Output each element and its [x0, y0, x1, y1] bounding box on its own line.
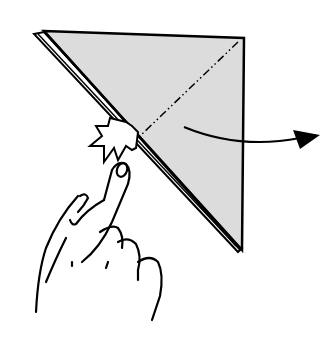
push-symbol-icon: [90, 118, 138, 162]
arrow-head-icon: [293, 130, 320, 149]
origami-diagram: [0, 0, 330, 346]
hand-illustration: [36, 162, 162, 320]
